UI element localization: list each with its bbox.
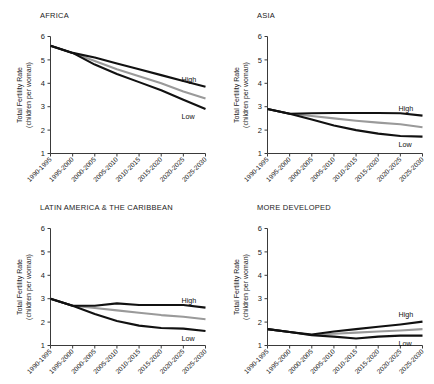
- x-tick-label: 2025-2030: [180, 348, 207, 375]
- chart-panel-2: ASIATotal Fertility Rate(children per wo…: [217, 0, 434, 192]
- y-axis-label: Total Fertility Rate(children per woman): [233, 62, 250, 128]
- y-tick-label: 5: [41, 56, 45, 65]
- series-label-low: Low: [399, 140, 413, 149]
- y-axis-label-line1: Total Fertility Rate: [16, 259, 24, 315]
- y-tick-label: 4: [41, 271, 45, 280]
- x-tick-label: 2025-2030: [397, 348, 424, 375]
- plot-area: Total Fertility Rate(children per woman)…: [0, 192, 217, 384]
- x-tick-label: 2025-2030: [180, 156, 207, 183]
- y-tick-label: 3: [258, 102, 262, 111]
- series-label-low: Low: [182, 112, 196, 121]
- y-tick-label: 2: [41, 126, 45, 135]
- y-tick-label: 6: [41, 224, 45, 233]
- series-label-high: High: [399, 104, 414, 113]
- plot-area: Total Fertility Rate(children per woman)…: [0, 0, 217, 192]
- y-axis-label-line2: (children per woman): [242, 62, 250, 128]
- y-axis-label-line1: Total Fertility Rate: [233, 259, 241, 315]
- x-tick-label: 2025-2030: [397, 156, 424, 183]
- y-tick-label: 4: [258, 79, 262, 88]
- fertility-rate-small-multiples-figure: AFRICATotal Fertility Rate(children per …: [0, 0, 434, 384]
- y-axis-label-line2: (children per woman): [25, 62, 33, 128]
- y-tick-label: 5: [258, 56, 262, 65]
- y-tick-label: 5: [41, 248, 45, 257]
- y-axis-label-line1: Total Fertility Rate: [233, 67, 241, 123]
- y-axis-label-line2: (children per woman): [242, 254, 250, 320]
- y-tick-label: 1: [41, 341, 45, 350]
- y-tick-label: 1: [258, 341, 262, 350]
- y-tick-label: 3: [258, 294, 262, 303]
- y-tick-label: 1: [258, 149, 262, 158]
- chart-panel-3: LATIN AMERICA & THE CARIBBEANTotal Ferti…: [0, 192, 217, 384]
- y-tick-label: 4: [258, 271, 262, 280]
- y-axis-label-line1: Total Fertility Rate: [16, 67, 24, 123]
- plot-area: Total Fertility Rate(children per woman)…: [217, 192, 434, 384]
- y-axis-label: Total Fertility Rate(children per woman): [16, 62, 33, 128]
- chart-panel-1: AFRICATotal Fertility Rate(children per …: [0, 0, 217, 192]
- y-tick-label: 2: [41, 318, 45, 327]
- y-tick-label: 6: [258, 224, 262, 233]
- y-tick-label: 2: [258, 126, 262, 135]
- y-tick-label: 3: [41, 294, 45, 303]
- y-axis-label: Total Fertility Rate(children per woman): [233, 254, 250, 320]
- series-label-high: High: [182, 296, 197, 305]
- chart-panel-4: MORE DEVELOPEDTotal Fertility Rate(child…: [217, 192, 434, 384]
- y-tick-label: 3: [41, 102, 45, 111]
- y-axis-label-line2: (children per woman): [25, 254, 33, 320]
- y-tick-label: 4: [41, 79, 45, 88]
- y-tick-label: 6: [258, 32, 262, 41]
- series-label-low: Low: [399, 339, 413, 348]
- y-tick-label: 1: [41, 149, 45, 158]
- series-label-low: Low: [182, 334, 196, 343]
- y-tick-label: 2: [258, 318, 262, 327]
- y-tick-label: 6: [41, 32, 45, 41]
- plot-area: Total Fertility Rate(children per woman)…: [217, 0, 434, 192]
- series-label-high: High: [182, 75, 197, 84]
- series-label-high: High: [399, 310, 414, 319]
- y-axis-label: Total Fertility Rate(children per woman): [16, 254, 33, 320]
- y-tick-label: 5: [258, 248, 262, 257]
